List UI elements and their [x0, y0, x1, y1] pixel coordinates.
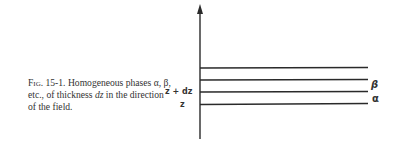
label-z-plus-dz: z + dz [165, 87, 192, 96]
layer-line-2 [200, 80, 368, 81]
phase-diagram [0, 0, 398, 147]
arrow-up-icon [197, 4, 203, 14]
label-beta: β [371, 79, 378, 90]
label-z: z [180, 100, 185, 109]
layer-line-3 [200, 92, 368, 93]
label-alpha: α [372, 93, 379, 104]
layer-line-1 [200, 68, 368, 69]
layer-line-4 [200, 104, 368, 105]
